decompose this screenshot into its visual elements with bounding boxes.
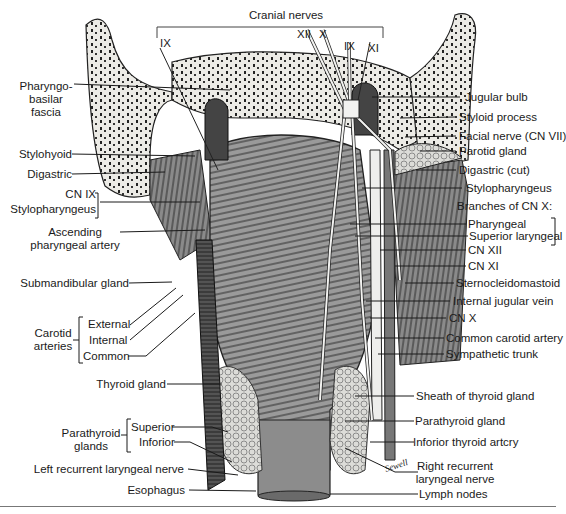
facial-nerve-label: Facial nerve (CN VII) — [459, 130, 566, 143]
parathyroid-gland-label: Parathyroid gland — [415, 415, 505, 428]
cn-ix-right-label: IX — [344, 40, 355, 53]
esophagus — [258, 420, 330, 500]
label-line: fascia — [18, 106, 74, 119]
stylopharyngeus-right-label: Stylopharyngeus — [466, 182, 552, 195]
inferior-thyroid-artery-label: Inforior thyroid artcry — [413, 436, 518, 449]
parathyroid-glands-label: Parathyroid glands — [58, 427, 124, 453]
digastric-label: Digastric — [27, 168, 72, 181]
esophagus-label: Esophagus — [127, 484, 185, 497]
lymph-nodes-label: Lymph nodes — [419, 488, 488, 501]
left-recurrent-laryngeal-nerve-label: Left recurrent laryngeal nerve — [34, 463, 184, 476]
label-line: Carotid — [30, 327, 76, 340]
right-recurrent-laryngeal-nerve-label: Right recurrent laryngeal nerve — [415, 460, 495, 486]
superior-laryngeal-label: Superior laryngeal — [469, 230, 562, 243]
thyroid-gland-label: Thyroid gland — [96, 378, 166, 391]
inferior-parathyroid-label: Inforior — [139, 436, 175, 449]
nerve-foramen — [343, 100, 359, 118]
stylopharyngeus-left-label: Stylopharyngeus — [10, 203, 96, 216]
label-line: pharyngeal artery — [30, 239, 120, 252]
common-carotid-artery-label: Common carotid artery — [446, 332, 563, 345]
cn-xi-right-label: CN XI — [468, 260, 499, 273]
external-carotid-label: External — [88, 318, 130, 331]
cn-xii-right-label: CN XII — [468, 244, 502, 257]
cranial-nerves-bracket — [157, 27, 383, 38]
cn-x-label: X — [319, 28, 327, 41]
parotid-gland-label: Parotid gland — [459, 145, 527, 158]
right-vagus-nerve — [370, 150, 382, 420]
carotid-arteries-label: Carotid arteries — [30, 327, 76, 353]
ascending-pharyngeal-artery-label: Ascending pharyngeal artery — [30, 226, 120, 252]
internal-carotid-label: Internal — [89, 334, 127, 347]
sternocleidomastoid-label: Sternocleidomastoid — [456, 277, 560, 290]
superior-parathyroid-label: Superior — [131, 421, 174, 434]
internal-jugular-vein-label: Internal jugular vein — [453, 295, 553, 308]
label-line: glands — [58, 440, 124, 453]
submandibular-gland-label: Submandibular gland — [20, 277, 129, 290]
cranial-nerves-heading: Cranial nerves — [236, 9, 336, 22]
common-carotid-left-label: Common — [83, 350, 130, 363]
label-line: Parathyroid — [58, 427, 124, 440]
stylohyoid-label: Stylohyoid — [19, 148, 72, 161]
cn-x-branches-heading: Branches of CN X: — [457, 200, 552, 213]
styloid-process-label: Styloid process — [459, 111, 537, 124]
label-line: basilar — [18, 93, 74, 106]
esophagus-opening — [258, 491, 330, 501]
pharyngobasilar-fascia-label: Pharyngo- basilar fascia — [18, 80, 74, 119]
cn-ix-label: CN IX — [65, 188, 96, 201]
sympathetic-trunk-label: Sympathetic trunk — [446, 348, 538, 361]
cn-xii-label: XII — [297, 28, 311, 41]
cn-x-right-label: CN X — [449, 312, 476, 325]
anatomy-figure: Sewell — [0, 0, 566, 514]
cn-xi-label: XI — [368, 42, 379, 55]
digastric-cut-label: Digastric (cut) — [459, 164, 530, 177]
label-line: Right recurrent — [415, 460, 495, 473]
label-line: arteries — [30, 340, 76, 353]
jugular-bulb-label: Jugular bulb — [465, 91, 528, 104]
label-line: Ascending — [30, 226, 120, 239]
label-line: laryngeal nerve — [415, 473, 495, 486]
label-line: Pharyngo- — [18, 80, 74, 93]
sheath-of-thyroid-gland-label: Sheath of thyroid gland — [416, 390, 534, 403]
figure-bottom-rule — [0, 506, 556, 507]
cn-ix-left-label: IX — [160, 37, 171, 50]
